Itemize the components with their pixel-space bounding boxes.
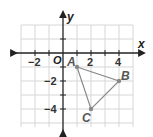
x-tick-label: −2 — [28, 56, 41, 68]
y-tick-label: −4 — [44, 103, 57, 115]
x-axis-label: x — [137, 37, 146, 51]
y-axis-label: y — [66, 10, 75, 24]
grid — [21, 25, 133, 127]
y-tick-label: −2 — [44, 75, 57, 87]
vertex-a-label: A — [66, 55, 76, 69]
triangle-abc — [77, 67, 119, 109]
vertex-c-label: C — [82, 111, 91, 125]
vertex-b-label: B — [121, 69, 130, 83]
origin-label: O — [53, 54, 62, 66]
coordinate-plane: x y O −2 2 4 −2 −4 A B C — [0, 0, 153, 137]
x-tick-label: 4 — [115, 56, 122, 68]
x-tick-label: 2 — [87, 56, 93, 68]
